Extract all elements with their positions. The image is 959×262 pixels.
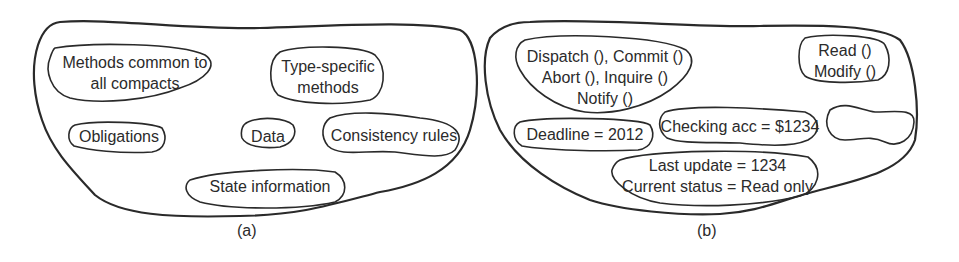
label-methods-common: Methods common to all compacts xyxy=(55,52,215,94)
caption-a: (a) xyxy=(237,222,257,240)
label-state-information: State information xyxy=(195,176,345,197)
label-line: Dispatch (), Commit () xyxy=(515,46,695,67)
label-data: Data xyxy=(240,126,296,147)
label-deadline: Deadline = 2012 xyxy=(516,124,654,145)
label-line: Modify () xyxy=(800,61,890,82)
label-line: Read () xyxy=(800,40,890,61)
label-line: Current status = Read only xyxy=(610,176,825,197)
label-generic-methods: Dispatch (), Commit () Abort (), Inquire… xyxy=(515,46,695,109)
caption-b: (b) xyxy=(697,222,717,240)
label-consistency-rules: Consistency rules xyxy=(326,125,462,146)
label-checking-acc: Checking acc = $1234 xyxy=(660,116,820,137)
label-read-modify: Read () Modify () xyxy=(800,40,890,82)
label-line: Abort (), Inquire () xyxy=(515,67,695,88)
label-line: methods xyxy=(272,77,384,98)
label-line: Last update = 1234 xyxy=(610,155,825,176)
label-state-values: Last update = 1234 Current status = Read… xyxy=(610,155,825,197)
label-obligations: Obligations xyxy=(72,126,166,147)
blob-empty xyxy=(827,106,914,144)
label-line: Type-specific xyxy=(272,56,384,77)
label-line: Notify () xyxy=(515,88,695,109)
label-line: Methods common to xyxy=(55,52,215,73)
label-type-specific: Type-specific methods xyxy=(272,56,384,98)
label-line: all compacts xyxy=(55,73,215,94)
